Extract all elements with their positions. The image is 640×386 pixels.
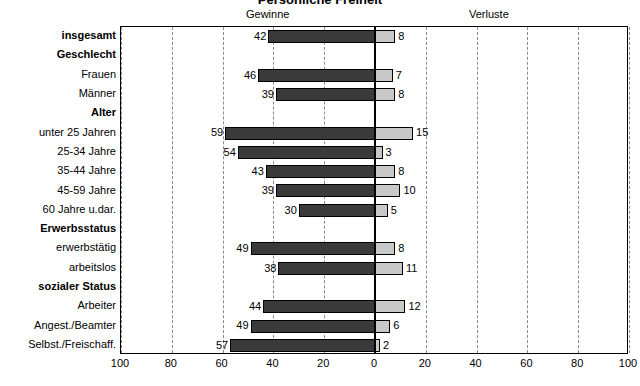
bar-row: 498 [121, 239, 627, 258]
bar-gains [238, 146, 375, 159]
chart-title: Persönliche Freiheit [0, 0, 640, 4]
bar-value-gains: 49 [229, 239, 249, 258]
bar-losses [375, 320, 390, 333]
bar-losses [375, 146, 383, 159]
bar-value-gains: 39 [254, 181, 274, 200]
bar-row: 543 [121, 143, 627, 162]
bar-gains [230, 339, 375, 352]
bar-value-gains: 57 [208, 336, 228, 355]
bar-row: 428 [121, 27, 627, 46]
bar-value-losses: 15 [416, 123, 428, 142]
bar-gains [263, 300, 375, 313]
bar-value-losses: 8 [398, 162, 404, 181]
bar-row: 467 [121, 66, 627, 85]
bar-row: 3910 [121, 181, 627, 200]
bar-losses [375, 204, 388, 217]
x-tick-label: 80 [560, 357, 594, 369]
bar-losses [375, 30, 395, 43]
bar-value-gains: 30 [277, 201, 297, 220]
x-tick-label: 0 [357, 357, 391, 369]
row-label: erwerbstätig [56, 238, 116, 257]
row-label: Arbeiter [77, 296, 116, 315]
x-tick-label: 60 [205, 357, 239, 369]
x-tick-label: 100 [103, 357, 137, 369]
x-tick-label: 40 [459, 357, 493, 369]
row-label: insgesamt [62, 26, 116, 45]
bar-losses [375, 69, 393, 82]
row-label: 45-59 Jahre [57, 181, 116, 200]
bar-gains [276, 184, 375, 197]
x-tick-label: 20 [408, 357, 442, 369]
row-label: Frauen [81, 65, 116, 84]
x-tick-label: 60 [509, 357, 543, 369]
row-label: Selbst./Freischaff. [28, 335, 116, 354]
bar-value-losses: 7 [396, 66, 402, 85]
bar-value-losses: 6 [393, 316, 399, 335]
row-label: Männer [79, 84, 116, 103]
row-label: 25-34 Jahre [57, 142, 116, 161]
bar-gains [268, 30, 375, 43]
bar-losses [375, 242, 395, 255]
bar-value-losses: 12 [408, 297, 420, 316]
bar-losses [375, 262, 403, 275]
column-header-losses: Verluste [469, 8, 509, 20]
bar-value-gains: 44 [241, 297, 261, 316]
row-label: 60 Jahre u.dar. [43, 200, 116, 219]
bar-value-losses: 8 [398, 85, 404, 104]
bar-row: 398 [121, 85, 627, 104]
row-label: 35-44 Jahre [57, 161, 116, 180]
bar-value-gains: 46 [236, 66, 256, 85]
bar-value-gains: 38 [256, 259, 276, 278]
bar-gains [299, 204, 375, 217]
bar-gains [266, 165, 375, 178]
bar-value-gains: 43 [244, 162, 264, 181]
chart-container: Persönliche Freiheit Gewinne Verluste in… [0, 0, 640, 386]
gridline [629, 27, 630, 353]
bar-losses [375, 88, 395, 101]
row-label: Angest./Beamter [34, 316, 116, 335]
bar-row: 572 [121, 336, 627, 355]
bar-gains [258, 69, 375, 82]
bar-losses [375, 184, 400, 197]
bar-row: 5915 [121, 123, 627, 142]
plot-area: 4284673985915543438391030549838114412496… [120, 26, 628, 354]
bar-losses [375, 165, 395, 178]
x-tick-label: 40 [255, 357, 289, 369]
row-label: sozialer Status [38, 277, 116, 296]
bar-value-gains: 49 [229, 316, 249, 335]
row-label: unter 25 Jahren [39, 123, 116, 142]
bar-losses [375, 300, 405, 313]
bar-value-losses: 3 [386, 143, 392, 162]
row-label: Geschlecht [57, 45, 116, 64]
bar-row: 4412 [121, 297, 627, 316]
x-tick-label: 80 [154, 357, 188, 369]
column-header-gains: Gewinne [246, 8, 289, 20]
bar-value-gains: 54 [216, 143, 236, 162]
row-label: Alter [91, 103, 116, 122]
bar-value-gains: 39 [254, 85, 274, 104]
bar-value-losses: 5 [391, 201, 397, 220]
bar-row: 3811 [121, 259, 627, 278]
bar-gains [251, 242, 375, 255]
bar-value-losses: 8 [398, 239, 404, 258]
bar-gains [225, 127, 375, 140]
x-tick-label: 20 [306, 357, 340, 369]
bar-value-gains: 42 [246, 27, 266, 46]
bar-gains [251, 320, 375, 333]
bar-value-losses: 10 [403, 181, 415, 200]
row-label: Erwerbsstatus [40, 219, 116, 238]
bar-value-losses: 8 [398, 27, 404, 46]
bar-gains [278, 262, 375, 275]
bar-value-losses: 2 [383, 336, 389, 355]
bar-row: 438 [121, 162, 627, 181]
bar-value-losses: 11 [406, 259, 417, 278]
row-label: arbeitslos [69, 258, 116, 277]
bar-row: 305 [121, 201, 627, 220]
bar-gains [276, 88, 375, 101]
bar-value-gains: 59 [203, 123, 223, 142]
bar-row: 496 [121, 316, 627, 335]
x-tick-label: 100 [611, 357, 640, 369]
bar-losses [375, 127, 413, 140]
bar-losses [375, 339, 380, 352]
row-label-column: insgesamtGeschlechtFrauenMännerAlterunte… [0, 26, 118, 354]
